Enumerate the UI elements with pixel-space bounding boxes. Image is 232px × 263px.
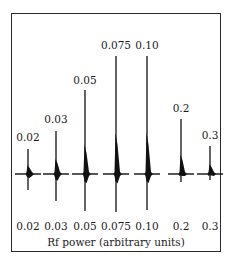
x-tick-label: 0.3 <box>202 220 219 232</box>
rf-power-signal-plot: 0.020.020.030.030.050.050.0750.0750.100.… <box>0 0 232 263</box>
x-tick-label: 0.02 <box>16 220 39 232</box>
x-tick-label: 0.03 <box>44 220 67 232</box>
peak-label: 0.10 <box>135 39 158 51</box>
x-tick-label: 0.10 <box>135 220 158 232</box>
signal-peak-0.3: 0.3 <box>197 129 223 180</box>
x-axis-title: Rf power (arbitrary units) <box>47 236 185 248</box>
peak-label: 0.075 <box>101 39 131 51</box>
signal-peak-0.10: 0.10 <box>134 39 160 210</box>
peak-label: 0.05 <box>73 74 96 86</box>
x-tick-label: 0.05 <box>73 220 96 232</box>
signal-peak-0.03: 0.03 <box>43 113 69 201</box>
x-tick-label: 0.075 <box>101 220 131 232</box>
peak-label: 0.03 <box>44 113 67 125</box>
signal-peak-0.075: 0.075 <box>101 39 131 212</box>
signal-peak-0.02: 0.02 <box>15 131 41 190</box>
x-tick-label: 0.2 <box>173 220 190 232</box>
peak-label: 0.2 <box>173 102 190 114</box>
peak-label: 0.02 <box>16 131 39 143</box>
signal-peak-0.05: 0.05 <box>72 74 98 211</box>
signal-peak-0.2: 0.2 <box>168 102 194 182</box>
peak-label: 0.3 <box>202 129 219 141</box>
